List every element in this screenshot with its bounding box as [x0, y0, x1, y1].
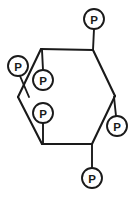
- ring-bond-top: [41, 49, 93, 50]
- p-circle-bottom[interactable]: [82, 168, 102, 188]
- p-circle-right[interactable]: [107, 116, 127, 136]
- substituent-group-p-top[interactable]: P: [84, 9, 104, 29]
- bond-p-top: [93, 29, 94, 50]
- bond-p-inner-upper: [42, 50, 43, 70]
- bond-p-right: [114, 97, 116, 116]
- substituent-group-p-right[interactable]: P: [107, 116, 127, 136]
- substituent-group-p-inner-upper[interactable]: P: [33, 70, 53, 90]
- ring-bond-upper-right: [93, 50, 115, 96]
- substituent-group-p-upper-left[interactable]: P: [8, 56, 28, 76]
- substituent-group-p-bottom[interactable]: P: [82, 168, 102, 188]
- substituent-group-p-inner-lower[interactable]: P: [33, 103, 53, 123]
- p-circle-top[interactable]: [84, 9, 104, 29]
- chemical-structure-diagram: P P P P P P: [0, 0, 135, 199]
- ring-bond-group: [18, 49, 115, 144]
- p-circle-inner-lower[interactable]: [33, 103, 53, 123]
- structure-canvas: P P P P P P: [0, 0, 135, 199]
- p-circle-inner-upper[interactable]: [33, 70, 53, 90]
- p-circle-upper-left[interactable]: [8, 56, 28, 76]
